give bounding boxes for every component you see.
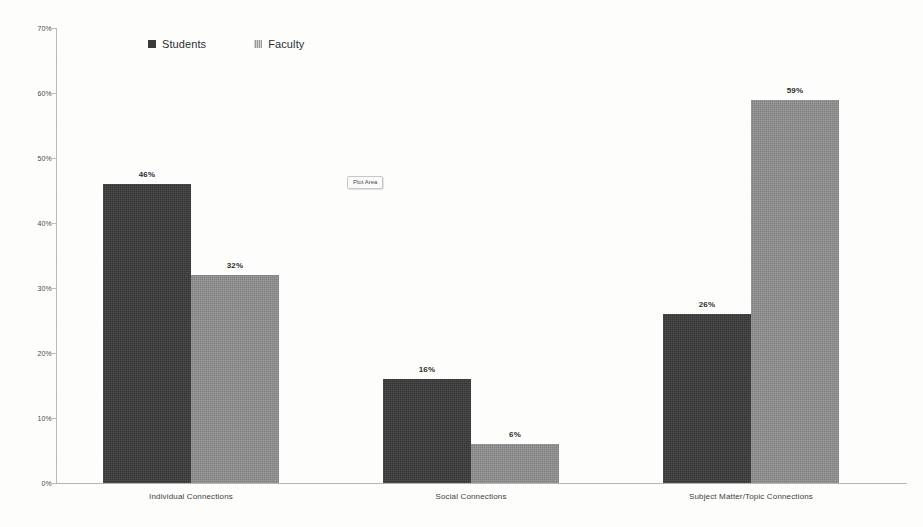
- plot-area-tooltip: Plot Area: [347, 176, 383, 189]
- legend-label-faculty: Faculty: [268, 38, 304, 50]
- y-axis-tick-label: 60%: [8, 90, 52, 97]
- bar-value-label: 46%: [139, 170, 156, 179]
- y-axis-tick-label: 30%: [8, 285, 52, 292]
- bar-chart: 0%10%20%30%40%50%60%70% Students Faculty…: [0, 0, 923, 527]
- bar-value-label: 32%: [227, 261, 244, 270]
- bar-students[interactable]: 26%: [663, 314, 751, 483]
- legend-swatch-students-icon: [148, 40, 156, 48]
- bar-students[interactable]: 16%: [383, 379, 471, 483]
- legend-swatch-faculty-icon: [254, 40, 262, 48]
- bar-faculty[interactable]: 6%: [471, 444, 559, 483]
- y-axis-tick-label: 10%: [8, 415, 52, 422]
- y-axis-tick-label: 70%: [8, 25, 52, 32]
- legend-label-students: Students: [162, 38, 206, 50]
- plot-area[interactable]: 46%32%16%6%26%59%: [57, 28, 907, 483]
- y-axis-tick-label: 20%: [8, 350, 52, 357]
- y-axis-tick-label: 50%: [8, 155, 52, 162]
- bar-group: 46%32%: [103, 28, 279, 483]
- x-axis-line: [56, 483, 907, 484]
- bar-value-label: 6%: [509, 430, 521, 439]
- bar-group: 26%59%: [663, 28, 839, 483]
- bar-faculty[interactable]: 59%: [751, 100, 839, 484]
- x-axis-category-label: Individual Connections: [149, 492, 233, 501]
- y-axis-tick-label: 0%: [8, 480, 52, 487]
- y-axis: 0%10%20%30%40%50%60%70%: [0, 0, 52, 527]
- y-axis-tick-label: 40%: [8, 220, 52, 227]
- bar-students[interactable]: 46%: [103, 184, 191, 483]
- bar-value-label: 59%: [787, 86, 804, 95]
- legend-item-students[interactable]: Students: [148, 38, 206, 50]
- bar-value-label: 26%: [699, 300, 716, 309]
- x-axis-category-label: Subject Matter/Topic Connections: [689, 492, 813, 501]
- x-axis-category-label: Social Connections: [435, 492, 506, 501]
- bar-value-label: 16%: [419, 365, 436, 374]
- legend-item-faculty[interactable]: Faculty: [254, 38, 304, 50]
- bar-group: 16%6%: [383, 28, 559, 483]
- chart-legend: Students Faculty: [148, 38, 304, 50]
- bar-faculty[interactable]: 32%: [191, 275, 279, 483]
